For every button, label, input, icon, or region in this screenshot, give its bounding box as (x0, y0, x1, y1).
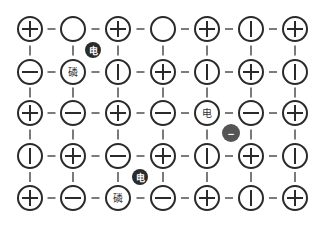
node-minus (151, 186, 175, 210)
node-plus (195, 186, 219, 210)
node-plus (239, 60, 263, 84)
node-plus (18, 101, 42, 125)
node-plus (18, 186, 42, 210)
node-label: 磷 (106, 186, 130, 210)
node-plus (18, 17, 42, 41)
node-plus (239, 144, 263, 168)
grid-diagram: 磷电磷 电电− (0, 0, 325, 226)
node-bar (106, 60, 130, 84)
node-minus (18, 60, 42, 84)
dot-label: 电 (136, 172, 145, 183)
node-minus (151, 101, 175, 125)
node-bar (283, 60, 307, 84)
floating-dot: − (222, 124, 240, 142)
node-plus (283, 101, 307, 125)
node-minus (106, 144, 130, 168)
node-text: 磷 (113, 192, 123, 204)
grid-diagram-canvas: 磷电磷 电电− (0, 0, 325, 226)
node-bar (239, 186, 263, 210)
node-bar (195, 144, 219, 168)
node-minus (239, 101, 263, 125)
node-plus (61, 144, 85, 168)
node-plus (106, 101, 130, 125)
node-plus (106, 17, 130, 41)
node-bar (239, 17, 263, 41)
node-text: 磷 (68, 66, 78, 78)
dot-label: 电 (89, 45, 98, 56)
node-plus (151, 60, 175, 84)
node-plus (283, 17, 307, 41)
node-minus (61, 186, 85, 210)
node-label: 电 (195, 101, 219, 125)
node-bar (195, 60, 219, 84)
node-label: 磷 (61, 60, 85, 84)
node-bar (18, 144, 42, 168)
dot-label: − (227, 129, 235, 139)
node-plus (151, 144, 175, 168)
node-empty (61, 17, 85, 41)
node-plus (195, 17, 219, 41)
floating-dot: 电 (132, 169, 148, 185)
floating-dot: 电 (85, 42, 101, 58)
node-empty (151, 17, 175, 41)
node-minus (61, 101, 85, 125)
node-text: 电 (202, 107, 212, 119)
node-bar (283, 144, 307, 168)
node-plus (283, 186, 307, 210)
